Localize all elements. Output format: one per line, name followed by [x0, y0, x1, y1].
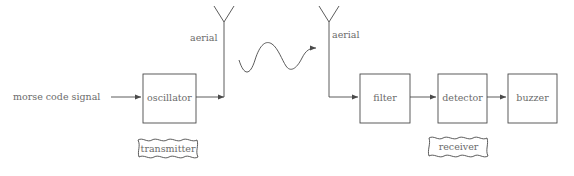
group-label-receiver: receiver: [429, 142, 488, 152]
receive-aerial-label: aerial: [332, 30, 360, 40]
block-label-detector: detector: [438, 93, 487, 103]
block-label-filter: filter: [360, 93, 410, 103]
input-signal-label: morse code signal: [13, 92, 100, 102]
group-label-transmitter: transmitter: [138, 144, 198, 154]
diagram-canvas: morse code signal oscillator filter dete…: [0, 0, 574, 176]
block-label-buzzer: buzzer: [508, 93, 557, 103]
radio-wave-path: [239, 43, 316, 72]
transmit-aerial-label: aerial: [190, 33, 218, 43]
receive-aerial-arm-left: [319, 6, 329, 22]
receive-aerial-arm-right: [329, 6, 339, 22]
block-label-oscillator: oscillator: [143, 93, 196, 103]
transmit-aerial-arm-left: [214, 6, 224, 22]
transmit-aerial-arm-right: [224, 6, 234, 22]
